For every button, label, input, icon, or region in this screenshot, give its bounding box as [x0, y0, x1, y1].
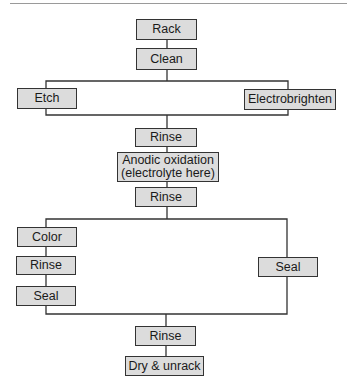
- node-label: Seal: [33, 290, 58, 303]
- node-rinse-3: Rinse: [16, 256, 76, 275]
- node-label: Clean: [150, 53, 183, 66]
- node-etch: Etch: [17, 88, 77, 109]
- node-electrobrighten: Electrobrighten: [244, 89, 336, 110]
- node-label: Rinse: [150, 330, 182, 343]
- node-rinse-2: Rinse: [135, 187, 197, 207]
- node-label: Rack: [152, 23, 180, 36]
- node-dry-unrack: Dry & unrack: [125, 356, 204, 376]
- node-color: Color: [17, 227, 77, 247]
- node-label: Seal: [275, 261, 300, 274]
- node-label-line-2: (electrolyte here): [121, 167, 215, 180]
- node-anodic-oxidation: Anodic oxidation (electrolyte here): [117, 152, 219, 182]
- node-label: Rinse: [150, 131, 182, 144]
- node-label: Electrobrighten: [248, 93, 332, 106]
- node-rack: Rack: [136, 19, 197, 40]
- node-label: Color: [32, 231, 62, 244]
- node-clean: Clean: [136, 48, 197, 70]
- node-label: Rinse: [150, 191, 182, 204]
- node-seal-right: Seal: [258, 257, 318, 277]
- node-rinse-4: Rinse: [135, 326, 196, 346]
- node-label: Rinse: [30, 259, 62, 272]
- node-label: Etch: [34, 92, 59, 105]
- node-label: Dry & unrack: [128, 360, 200, 373]
- node-rinse-1: Rinse: [135, 128, 197, 147]
- node-seal-left: Seal: [16, 286, 76, 306]
